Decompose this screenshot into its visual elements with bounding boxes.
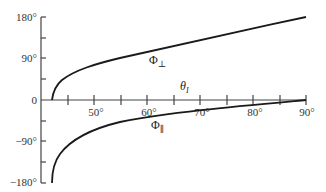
x-tick-label-80: 80°: [247, 106, 262, 118]
phase-shift-chart: 180° 90° 0 −90° −180° 50° 60° 70° 80° 90…: [0, 0, 326, 192]
curve-phi-perpendicular: [52, 17, 306, 100]
x-tick-label-70: 70°: [194, 106, 209, 118]
label-phi-perpendicular: Φ⊥: [149, 53, 166, 69]
y-tick-label-neg90: −90°: [15, 135, 37, 147]
x-axis-title-theta: θI: [180, 79, 189, 95]
y-tick-label-neg180: −180°: [10, 176, 37, 188]
x-tick-label-90: 90°: [299, 106, 314, 118]
y-tick-label-0: 0: [32, 94, 38, 106]
x-tick-label-50: 50°: [88, 106, 103, 118]
y-tick-label-180: 180°: [16, 11, 37, 23]
label-phi-parallel: Φ∥: [151, 118, 164, 134]
y-tick-label-90: 90°: [22, 52, 37, 64]
